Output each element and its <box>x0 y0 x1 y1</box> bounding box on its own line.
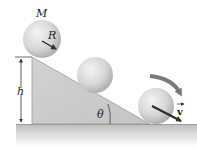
mass-label: M <box>35 7 48 20</box>
radius-label: R <box>47 29 56 42</box>
incline-diagram: θ h M R v <box>0 0 197 147</box>
sphere-middle <box>77 57 113 93</box>
velocity-label: v <box>176 106 184 117</box>
sphere-bottom <box>138 88 174 124</box>
angle-label: θ <box>97 108 104 121</box>
height-label: h <box>17 85 24 98</box>
ground <box>16 124 197 146</box>
